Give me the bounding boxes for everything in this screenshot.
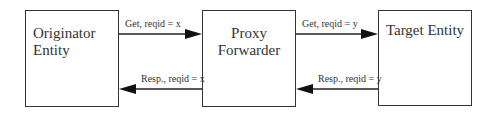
message-label-resp-x: Resp., reqid = x (141, 73, 205, 84)
arrows-layer (0, 0, 493, 114)
arrow-resp-x (119, 84, 202, 94)
message-label-get-x: Get, reqid = x (125, 18, 181, 29)
message-label-resp-y: Resp., reqid = y (318, 73, 382, 84)
arrow-get-x (119, 29, 202, 39)
arrow-get-y (296, 29, 378, 39)
arrow-resp-y (296, 84, 378, 94)
message-label-get-y: Get, reqid = y (302, 18, 358, 29)
